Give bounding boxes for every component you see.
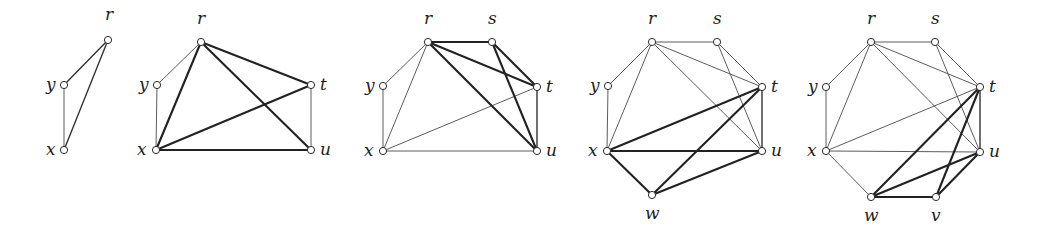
edge-x-t [607,87,762,151]
vertex-y [379,82,386,89]
edge-r-u [428,42,537,151]
vertex-t [758,83,765,90]
vertex-label-r: r [424,8,433,28]
vertex-u [758,147,765,154]
nodes: ryxtu [137,8,331,159]
vertex-y [822,83,829,90]
edges [383,42,537,151]
panels-container: ryxryxtursyxtursyxtuwrsyxtuwv [45,4,1000,225]
vertex-u [976,148,983,155]
edge-s-t [935,42,980,87]
vertex-label-r: r [105,4,114,24]
edge-s-t [492,42,537,87]
vertex-t [976,83,983,90]
vertex-label-u: u [546,140,557,160]
vertex-label-x: x [137,139,147,159]
edge-x-t [826,87,980,151]
vertex-label-x: x [364,140,374,160]
vertex-label-v: v [931,205,941,225]
graph-panel-3: rsyxtu [364,8,557,160]
edge-y-r [826,42,871,87]
edge-s-u [492,42,537,151]
graph-sequence-figure: ryxryxtursyxtursyxtuwrsyxtuwv [0,0,1041,233]
edges [826,42,980,197]
edge-v-u [936,152,980,197]
vertex-x [60,146,67,153]
vertex-label-x: x [46,139,56,159]
vertex-label-y: y [364,75,375,95]
vertex-label-x: x [807,140,817,160]
vertex-label-t: t [546,76,553,96]
edge-v-t [936,87,980,197]
vertex-r [104,36,111,43]
edge-s-t [717,42,762,87]
vertex-label-u: u [989,141,1000,161]
edge-x-w [826,151,871,197]
vertex-y [153,81,160,88]
edge-r-u [871,42,980,152]
vertex-label-t: t [771,76,778,96]
vertex-label-x: x [588,140,598,160]
vertex-label-r: r [867,8,876,28]
edge-y-r [608,42,652,86]
graph-panel-2: ryxtu [137,8,331,159]
edge-r-t [428,42,537,87]
edge-w-t [871,87,980,197]
vertex-label-y: y [589,75,600,95]
nodes: ryx [45,4,114,159]
edges [156,42,311,150]
vertex-label-r: r [648,8,657,28]
vertex-s [931,38,938,45]
vertex-label-y: y [807,76,818,96]
vertex-w [648,191,655,198]
edge-r-u [201,42,311,150]
edge-r-x [64,40,108,150]
graph-panel-1: ryx [45,4,114,159]
edges [64,40,108,150]
vertex-x [603,147,610,154]
vertex-v [932,193,939,200]
vertex-label-u: u [320,139,331,159]
edge-y-r [383,42,428,86]
edge-y-r [157,42,201,85]
vertex-x [379,147,386,154]
vertex-r [424,38,431,45]
vertex-x [822,147,829,154]
edge-r-y [64,40,108,85]
vertex-r [648,38,655,45]
edge-w-u [652,151,762,195]
graph-panel-5: rsyxtuwv [807,8,1000,225]
edge-r-t [201,42,311,85]
vertex-t [533,83,540,90]
vertex-r [197,38,204,45]
vertex-w [867,193,874,200]
edge-s-u [935,42,980,152]
vertex-u [533,147,540,154]
nodes: rsyxtuwv [807,8,1000,225]
vertex-s [488,38,495,45]
edge-w-u [871,152,980,197]
edge-r-u [652,42,762,151]
vertex-label-s: s [931,8,940,28]
vertex-t [307,81,314,88]
edge-w-t [652,87,762,195]
edge-r-t [652,42,762,87]
edge-y-x [607,86,608,151]
edge-r-t [871,42,980,87]
vertex-label-s: s [713,8,722,28]
vertex-y [60,81,67,88]
vertex-y [604,82,611,89]
vertex-label-w: w [645,203,660,223]
graph-panel-4: rsyxtuw [588,8,782,223]
vertex-u [307,146,314,153]
edge-x-w [607,151,652,195]
nodes: rsyxtuw [588,8,782,223]
edges [607,42,762,195]
vertex-label-u: u [771,140,782,160]
vertex-label-t: t [320,74,327,94]
vertex-x [152,146,159,153]
vertex-label-y: y [138,74,149,94]
edge-y-x [156,85,157,150]
vertex-label-y: y [45,74,56,94]
vertex-s [713,38,720,45]
